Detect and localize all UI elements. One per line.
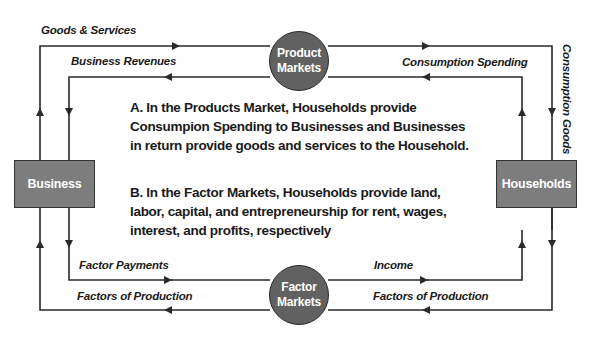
label-income: Income <box>374 259 413 271</box>
product-markets-label-line2: Markets <box>277 61 321 76</box>
arrow-down-icon <box>548 240 556 248</box>
arrow-up-icon <box>518 240 526 248</box>
product-markets-label-line1: Product <box>277 46 321 61</box>
arrow-left-icon <box>164 73 172 81</box>
label-goods-services: Goods & Services <box>41 24 136 36</box>
arrow-down-icon <box>548 108 556 116</box>
arrow-right-icon <box>420 276 428 284</box>
product-markets-node: Product Markets <box>269 31 329 91</box>
households-label: Households <box>502 177 572 191</box>
label-consumption-spending: Consumption Spending <box>402 56 528 68</box>
explanation-b: B. In the Factor Markets, Households pro… <box>130 183 475 240</box>
label-factors-of-production-left: Factors of Production <box>77 290 192 302</box>
arrow-left-icon <box>422 73 430 81</box>
arrow-left-icon <box>422 306 430 314</box>
business-label: Business <box>28 177 82 191</box>
arrow-down-icon <box>65 240 73 248</box>
factor-markets-node: Factor Markets <box>269 265 329 325</box>
arrow-up-icon <box>518 108 526 116</box>
arrow-right-icon <box>164 276 172 284</box>
factor-markets-label-line1: Factor <box>281 280 316 295</box>
label-business-revenues: Business Revenues <box>71 55 176 67</box>
factor-markets-label-line2: Markets <box>277 295 321 310</box>
arrow-down-icon <box>65 108 73 116</box>
business-node: Business <box>14 160 95 208</box>
explanation-a: A. In the Products Market, Households pr… <box>130 98 475 155</box>
arrow-up-icon <box>36 108 44 116</box>
label-factor-payments: Factor Payments <box>79 259 169 271</box>
arrow-right-icon <box>172 42 180 50</box>
arrow-right-icon <box>422 42 430 50</box>
arrow-up-icon <box>36 240 44 248</box>
households-node: Households <box>496 160 577 208</box>
label-consumption-goods: Consumption Goods <box>561 44 573 154</box>
arrow-left-icon <box>164 306 172 314</box>
label-factors-of-production-right: Factors of Production <box>373 290 488 302</box>
